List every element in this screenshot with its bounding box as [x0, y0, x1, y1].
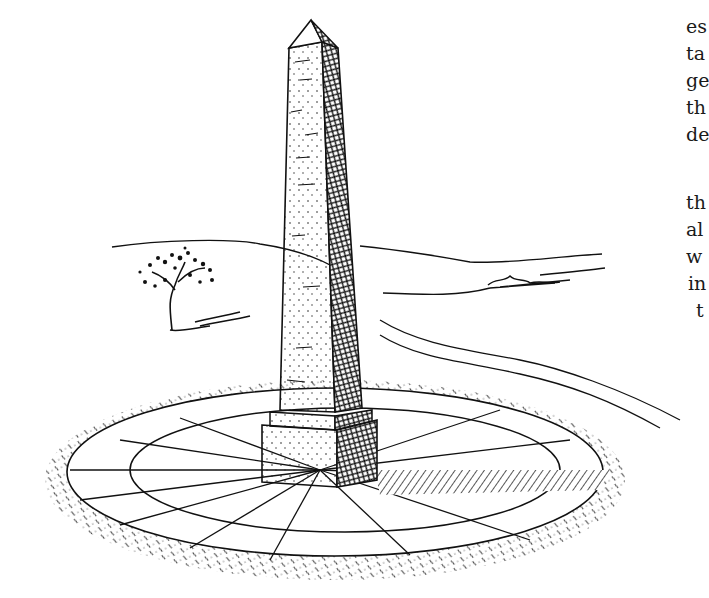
obelisk-base: [262, 410, 377, 487]
bush-icon: [488, 276, 570, 288]
obelisk-shaft: [280, 20, 362, 412]
tree-icon: [152, 262, 250, 331]
